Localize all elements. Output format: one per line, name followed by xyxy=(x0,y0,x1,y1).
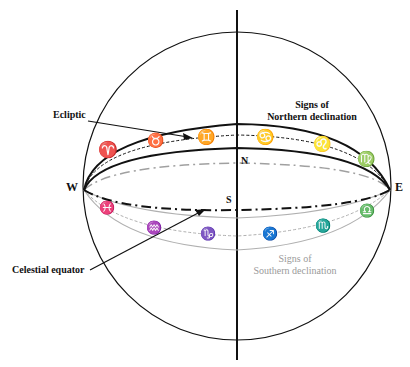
aquarius-icon: ♒ xyxy=(146,220,162,236)
virgo-icon: ♍ xyxy=(357,150,376,168)
equator-arrowhead xyxy=(195,209,206,216)
northern-label-line1: Signs of xyxy=(262,99,362,111)
south-label: S xyxy=(226,194,232,205)
east-label: E xyxy=(395,180,403,195)
leo-icon: ♌ xyxy=(313,135,332,153)
southern-label-line1: Signs of xyxy=(245,253,345,265)
gemini-icon: ♊ xyxy=(197,128,216,146)
ecliptic-label: Ecliptic xyxy=(53,109,86,120)
celestial-equator-label: Celestial equator xyxy=(12,264,85,275)
taurus-icon: ♉ xyxy=(147,132,164,149)
aries-icon: ♈ xyxy=(98,140,118,159)
sagittarius-icon: ♐ xyxy=(262,226,278,242)
ecliptic-pointer xyxy=(88,121,188,137)
scorpio-icon: ♏ xyxy=(315,218,331,234)
west-label: W xyxy=(66,180,78,195)
southern-label-line2: Southern declination xyxy=(245,265,345,277)
pisces-icon: ♓ xyxy=(99,200,115,216)
southern-declination-label: Signs of Southern declination xyxy=(245,253,345,277)
northern-declination-label: Signs of Northern declination xyxy=(262,99,362,123)
equator-pointer xyxy=(90,212,200,270)
celestial-sphere-diagram xyxy=(0,0,410,367)
libra-icon: ♎ xyxy=(359,203,375,219)
north-label: N xyxy=(241,155,248,166)
capricorn-icon: ♑ xyxy=(200,226,216,242)
cancer-icon: ♋ xyxy=(256,128,275,146)
northern-label-line2: Northern declination xyxy=(262,111,362,123)
